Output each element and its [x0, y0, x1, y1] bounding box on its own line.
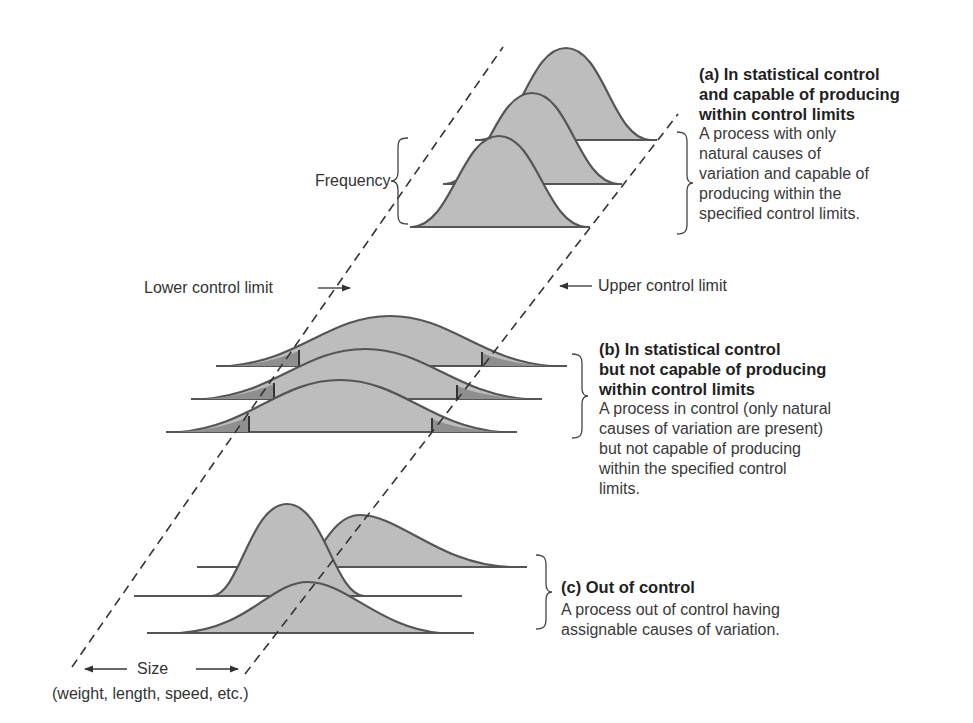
panel-a-desc-5: specified control limits. [699, 204, 900, 224]
panel-c-distributions [134, 504, 527, 633]
panel-c-brace [536, 555, 552, 629]
panel-a-desc-3: variation and capable of [699, 164, 900, 184]
frequency-brace [391, 138, 408, 224]
panel-a-heading-1: (a) In statistical control [699, 64, 900, 84]
panel-b-brace [572, 354, 588, 438]
panel-b-desc-3: but not capable of producing [599, 439, 831, 459]
panel-a-desc-2: natural causes of [699, 144, 900, 164]
panel-a-desc-4: producing within the [699, 184, 900, 204]
size-examples-label: (weight, length, speed, etc.) [52, 684, 249, 704]
panel-c-desc-1: A process out of control having [561, 600, 780, 620]
panel-a-heading-2: and capable of producing [699, 84, 900, 104]
panel-c-heading-1: (c) Out of control [561, 577, 780, 597]
panel-b-heading-1: (b) In statistical control [599, 339, 831, 359]
panel-b-desc-1: A process in control (only natural [599, 399, 831, 419]
upper-control-limit-label: Upper control limit [598, 276, 727, 296]
panel-b-desc-5: limits. [599, 479, 831, 499]
panel-b-text: (b) In statistical control but not capab… [599, 339, 831, 499]
panel-a-heading-3: within control limits [699, 104, 900, 124]
panel-b-desc-4: within the specified control [599, 459, 831, 479]
panel-b-heading-3: within control limits [599, 379, 831, 399]
panel-a-text: (a) In statistical control and capable o… [699, 64, 900, 224]
panel-c-desc-2: assignable causes of variation. [561, 620, 780, 640]
panel-c-text: (c) Out of control A process out of cont… [561, 577, 780, 640]
lower-control-limit-label: Lower control limit [144, 278, 273, 298]
panel-b-heading-2: but not capable of producing [599, 359, 831, 379]
size-label: Size [137, 659, 168, 679]
panel-a-distributions [410, 48, 657, 227]
panel-b-distributions [166, 316, 567, 432]
panel-b-desc-2: causes of variation are present) [599, 419, 831, 439]
panel-a-brace [677, 132, 693, 234]
frequency-label: Frequency [315, 171, 391, 191]
panel-a-desc-1: A process with only [699, 124, 900, 144]
